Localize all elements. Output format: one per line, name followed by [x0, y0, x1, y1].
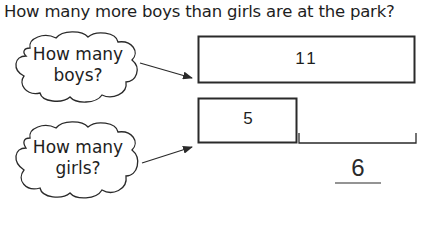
girls-value: 5 — [198, 109, 298, 129]
cloud-girls-line2: girls? — [20, 158, 136, 179]
difference-bracket — [299, 133, 416, 143]
cloud-boys-line2: boys? — [20, 65, 136, 86]
cloud-boys-line1: How many — [20, 44, 136, 65]
arrow-girls — [142, 147, 192, 163]
arrow-boys — [140, 63, 192, 78]
boys-value: 11 — [198, 49, 416, 69]
cloud-girls-text: How many girls? — [20, 137, 136, 179]
answer-value: 6 — [335, 154, 381, 182]
cloud-boys-text: How many boys? — [20, 44, 136, 86]
cloud-girls-line1: How many — [20, 137, 136, 158]
